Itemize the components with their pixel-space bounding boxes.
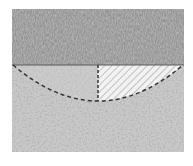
soil-cross-section-diagram	[0, 0, 193, 166]
